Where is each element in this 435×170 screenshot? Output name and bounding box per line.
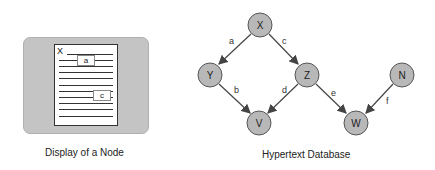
edge-label-f: f <box>386 96 389 106</box>
edge-f <box>366 84 393 113</box>
node-label-x: X <box>257 20 264 31</box>
edge-label-e: e <box>331 88 336 98</box>
node-label-v: V <box>256 118 263 129</box>
node-label-y: Y <box>207 70 214 81</box>
edge-label-c: c <box>282 36 287 46</box>
edge-label-b: b <box>234 85 239 95</box>
node-label-z: Z <box>304 70 310 81</box>
edge-label-a: a <box>229 36 234 46</box>
edge-a <box>219 34 251 64</box>
right-caption: Hypertext Database <box>262 149 350 160</box>
hypertext-graph: a c b d e f X Y Z N V W <box>0 0 435 170</box>
edge-label-d: d <box>282 85 287 95</box>
node-label-n: N <box>398 70 405 81</box>
node-label-w: W <box>351 118 361 129</box>
